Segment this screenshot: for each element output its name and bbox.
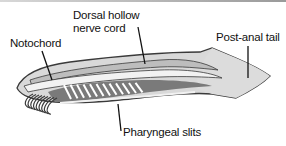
- leader-slits: [118, 104, 121, 131]
- label-dorsal-nerve-cord: Dorsal hollow nerve cord: [73, 9, 139, 35]
- label-nerve-line2: nerve cord: [73, 22, 139, 35]
- label-pharyngeal-slits: Pharyngeal slits: [123, 126, 201, 139]
- label-post-anal-tail: Post-anal tail: [216, 31, 280, 44]
- label-nerve-line1: Dorsal hollow: [73, 9, 139, 22]
- label-notochord: Notochord: [10, 37, 61, 50]
- lancelet-diagram: [0, 0, 286, 146]
